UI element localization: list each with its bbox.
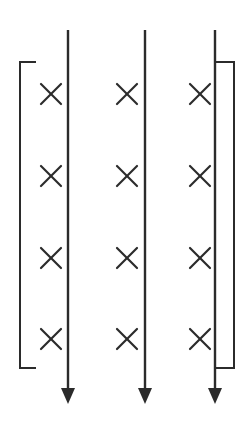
- left-bracket: [20, 62, 36, 368]
- x-mark-icon: [190, 248, 210, 268]
- x-mark-icon: [41, 166, 61, 186]
- x-mark-icon: [117, 166, 137, 186]
- current-wires: [61, 30, 222, 404]
- x-mark-icon: [41, 329, 61, 349]
- diagram-canvas: [0, 0, 252, 424]
- right-bracket: [215, 62, 234, 368]
- left-wire: [61, 30, 75, 404]
- middle-wire: [138, 30, 152, 404]
- x-mark-icon: [117, 329, 137, 349]
- x-mark-icon: [117, 84, 137, 104]
- x-mark-icon: [117, 248, 137, 268]
- loop-brackets: [20, 62, 234, 368]
- x-mark-icon: [190, 166, 210, 186]
- arrow-down-icon: [61, 388, 75, 404]
- arrow-down-icon: [138, 388, 152, 404]
- arrow-down-icon: [208, 388, 222, 404]
- x-mark-icon: [190, 84, 210, 104]
- x-mark-icon: [41, 84, 61, 104]
- magnetic-field-symbols: [41, 84, 210, 349]
- x-mark-icon: [190, 329, 210, 349]
- diagram-svg: [0, 0, 252, 424]
- x-mark-icon: [41, 248, 61, 268]
